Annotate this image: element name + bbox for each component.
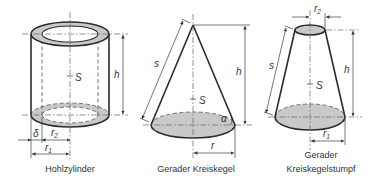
- cylinder-height-label: h: [114, 69, 120, 80]
- frustum-top-radius-label: r2: [314, 3, 321, 15]
- hollow-cylinder-caption: Hohlzylinder: [45, 164, 95, 174]
- cone-angle-label: α: [221, 113, 227, 124]
- frustum-figure: r2 h s S r1 Gerader Kreiskegelstumpf: [264, 3, 362, 174]
- hollow-cylinder-figure: h S δ r2 r1 Hohlzylinder: [18, 12, 128, 174]
- frustum-caption-line1: Gerader: [304, 150, 337, 160]
- wall-thickness-label: δ: [33, 128, 39, 139]
- inner-radius-label: r2: [51, 127, 58, 139]
- frustum-bottom-radius-label: r1: [323, 128, 330, 140]
- cone-radius-label: r: [211, 140, 215, 151]
- geometry-diagram: h S δ r2 r1 Hohlzylinder h s: [0, 0, 374, 185]
- cone-height-label: h: [236, 66, 242, 77]
- frustum-height-label: h: [344, 64, 350, 75]
- cone-caption: Gerader Kreiskegel: [157, 164, 235, 174]
- frustum-centroid-label: S: [316, 80, 323, 91]
- frustum-caption-line2: Kreiskegelstumpf: [286, 164, 356, 174]
- cone-slant-label: s: [154, 58, 159, 69]
- cone-centroid-label: S: [199, 95, 206, 106]
- cone-figure: h s S α r Gerader Kreiskegel: [140, 14, 252, 174]
- cylinder-centroid-label: S: [75, 72, 82, 83]
- frustum-slant-label: s: [269, 60, 274, 71]
- outer-radius-label: r1: [45, 142, 52, 154]
